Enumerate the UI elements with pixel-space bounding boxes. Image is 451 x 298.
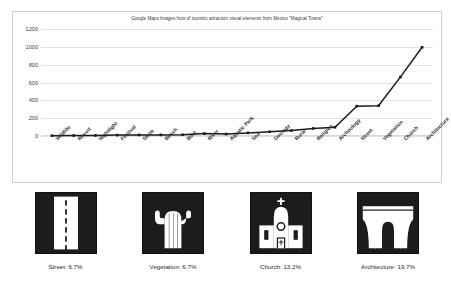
chart-panel: Google Maps Images hots of touristic att…: [12, 11, 442, 183]
data-point-marker: [159, 134, 162, 137]
data-point-marker: [181, 133, 184, 136]
cactus-icon: [142, 192, 204, 254]
aqueduct-icon: [357, 192, 419, 254]
icon-panel-church: Church: 13.2%: [227, 192, 334, 292]
data-point-marker: [203, 132, 206, 135]
data-point-marker: [355, 105, 358, 108]
data-point-marker: [312, 127, 315, 130]
icon-panel-architecture: Architecture: 19.7%: [335, 192, 442, 292]
data-point-marker: [51, 134, 54, 137]
series-line: [41, 29, 433, 136]
data-point-marker: [290, 129, 293, 132]
data-point-marker: [247, 132, 250, 135]
plot-area: 020040060080010001200: [41, 29, 433, 136]
data-point-marker: [72, 134, 75, 137]
x-axis-labels: WildlifeResortNightlightFestivalSwimBeac…: [41, 138, 433, 182]
data-point-marker: [377, 104, 380, 107]
y-axis-tick-label: 0: [35, 133, 38, 139]
series-polyline: [52, 47, 422, 135]
data-point-marker: [421, 46, 424, 49]
icon-panel-row: Street: 6.7%Vegetation: 6.7%Church: 13.2…: [12, 192, 442, 292]
y-axis-tick-label: 1200: [26, 26, 38, 32]
data-point-marker: [225, 133, 228, 136]
data-point-marker: [399, 76, 402, 79]
icon-panel-street: Street: 6.7%: [12, 192, 119, 292]
icon-panel-caption: Vegetation: 6.7%: [120, 263, 227, 270]
icon-panel-caption: Street: 6.7%: [12, 263, 119, 270]
data-point-marker: [268, 130, 271, 133]
church-icon: [250, 192, 312, 254]
icon-panel-vegetation: Vegetation: 6.7%: [120, 192, 227, 292]
chart-title: Google Maps Images hots of touristic att…: [13, 16, 441, 21]
y-axis-tick-label: 600: [29, 80, 38, 86]
y-axis-tick-label: 400: [29, 97, 38, 103]
y-axis-tick-label: 1000: [26, 44, 38, 50]
y-axis-tick-label: 800: [29, 62, 38, 68]
data-point-marker: [138, 134, 141, 137]
icon-panel-caption: Church: 13.2%: [227, 263, 334, 270]
figure-root: Google Maps Images hots of touristic att…: [0, 0, 451, 298]
data-point-marker: [116, 134, 119, 137]
icon-panel-caption: Architecture: 19.7%: [335, 263, 442, 270]
road-icon: [35, 192, 97, 254]
y-axis-tick-label: 200: [29, 115, 38, 121]
